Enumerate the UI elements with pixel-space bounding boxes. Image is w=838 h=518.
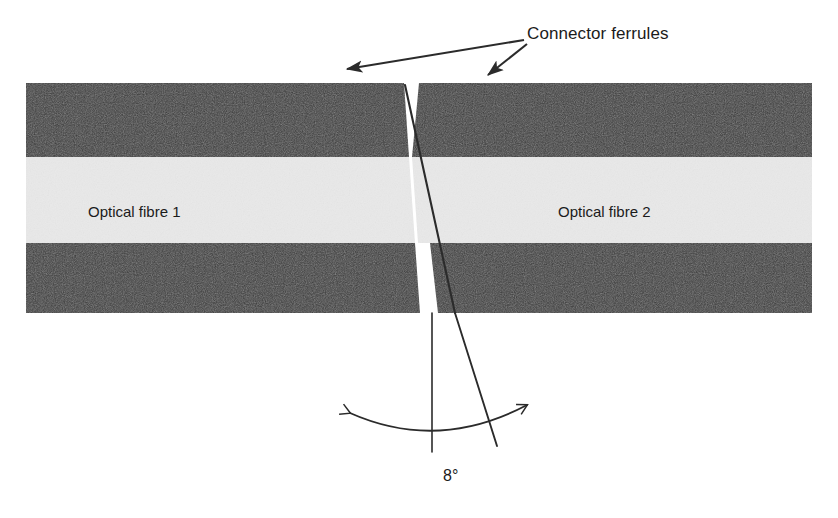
- label-angle-value: 8°: [443, 467, 458, 485]
- leader-arrow-left-ferrule: [347, 40, 524, 69]
- ferrule-right-lower-cladding: [430, 243, 812, 313]
- label-optical-fibre-2: Optical fibre 2: [558, 203, 651, 220]
- fibre-core-right: [412, 157, 812, 243]
- label-connector-ferrules: Connector ferrules: [527, 24, 669, 44]
- fibre-core-left: [26, 157, 415, 243]
- ferrule-left-upper-cladding: [26, 83, 409, 157]
- diagram-canvas: [0, 0, 838, 518]
- optical-fibre-connector-diagram: Connector ferrules Optical fibre 1 Optic…: [0, 0, 838, 518]
- ferrule-right-upper-cladding: [412, 83, 812, 157]
- leader-arrow-right-ferrule: [488, 44, 527, 75]
- label-optical-fibre-1: Optical fibre 1: [88, 203, 181, 220]
- ferrule-left-lower-cladding: [26, 243, 420, 313]
- angle-arc: [350, 405, 527, 431]
- cleave-extension-line: [455, 313, 497, 446]
